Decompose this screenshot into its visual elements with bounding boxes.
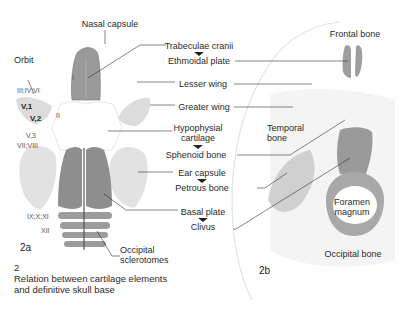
label-temporal-bone: bone [267,133,287,143]
caption-line-1: Relation between cartilage elements [14,273,167,284]
arrow-down-icon [193,145,203,149]
label-foramen: Foramen [334,197,370,207]
nerve-IX-X-XI: IX;X;XI [27,213,49,221]
label-clivus: Clivus [191,222,216,232]
label-basal-plate: Basal plate [181,207,226,217]
nerve-V2: V,2 [30,115,41,123]
label-magnum: magnum [334,207,369,217]
right-orbit-wing [118,98,150,126]
label-occipital: Occipital [120,245,155,255]
figure-number: 2 [14,262,167,273]
label-greater-wing: Greater wing [178,102,230,112]
label-temporal: Temporal [267,123,304,133]
right-ear-capsule [109,147,147,208]
nerve-V1: V,1 [21,103,32,111]
nerve-XII: XII [41,227,50,235]
frontal-bone-shape [343,45,351,78]
nerve-II: II [56,112,60,120]
nerve-V3: V,3 [26,132,36,140]
label-trabeculae-cranii: Trabeculae cranii [165,41,234,51]
label-petrous-bone: Petrous bone [175,183,229,193]
label-occipital-bone: Occipital bone [324,249,381,259]
nerve-VII-VIII: VII;VIII [17,142,38,150]
label-lesser-wing: Lesser wing [179,79,227,89]
left-ear-capsule [19,146,56,210]
label-ear-capsule: Ear capsule [178,168,226,178]
label-sphenoid-bone: Sphenoid bone [166,150,227,160]
nerve-III-IV-VI: III;IV;VI [17,87,40,95]
nerve-I: I [72,74,74,82]
basal-plate-left [58,147,82,209]
figure-caption: 2 Relation between cartilage elements an… [14,262,167,295]
caption-line-2: and definitive skull base [14,284,167,295]
label-frontal-bone: Frontal bone [330,29,381,39]
basal-plate-right [86,147,112,209]
panel-tag-2a: 2a [20,242,31,253]
panel-tag-2b: 2b [259,265,270,276]
label-ethmoidal-plate: Ethmoidal plate [168,56,230,66]
label-cartilage: cartilage [181,133,215,143]
label-orbit: Orbit [14,55,34,65]
label-nasal-capsule: Nasal capsule [82,19,139,29]
clivus-shape [337,127,373,174]
label-hypophysial: Hypophysial [173,123,222,133]
